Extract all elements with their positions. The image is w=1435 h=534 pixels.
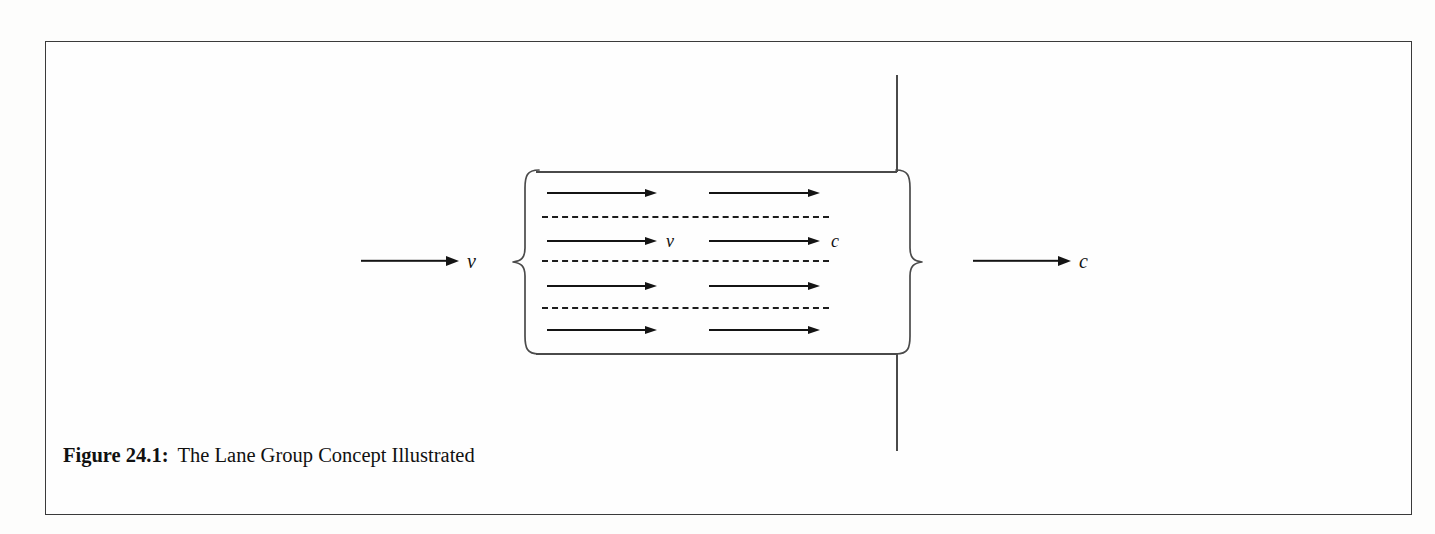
cross-street-line-upper — [896, 75, 898, 172]
road-top-edge — [536, 171, 897, 173]
left-brace-icon — [511, 168, 541, 356]
departure-capacity-label: c — [1079, 251, 1088, 271]
lane-divider-3 — [542, 307, 829, 309]
figure-border-frame: v c v c Figure 24.1:The Lane Group Conce… — [45, 41, 1412, 515]
lane-divider-1 — [542, 216, 829, 218]
lane-divider-2 — [542, 260, 829, 262]
lane-capacity-label: c — [831, 232, 839, 250]
lane-volume-label: v — [666, 232, 674, 250]
figure-page: v c v c Figure 24.1:The Lane Group Conce… — [0, 0, 1435, 534]
right-brace-icon — [894, 168, 924, 356]
figure-caption-label: Figure 24.1: — [63, 444, 169, 466]
approach-volume-label: v — [467, 251, 476, 271]
figure-caption: Figure 24.1:The Lane Group Concept Illus… — [63, 444, 475, 467]
road-bottom-edge — [536, 353, 897, 355]
cross-street-line-lower — [896, 353, 898, 451]
figure-caption-text: The Lane Group Concept Illustrated — [178, 444, 475, 466]
